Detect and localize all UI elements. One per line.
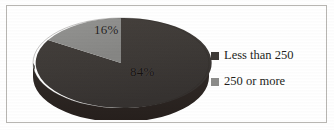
slice-label-less-than-250: 84% — [130, 64, 154, 80]
legend-item-less-than-250[interactable]: Less than 250 — [211, 44, 323, 66]
legend-label-250-or-more: 250 or more — [224, 75, 285, 88]
square-marker-icon — [211, 78, 219, 86]
chart-area: 16% 84% Less than 250 250 or more — [0, 0, 334, 130]
pie-chart-figure: 16% 84% Less than 250 250 or more — [0, 0, 334, 130]
slice-label-250-or-more: 16% — [94, 22, 118, 38]
legend-label-less-than-250: Less than 250 — [224, 49, 293, 62]
square-marker-icon — [211, 52, 219, 60]
pie-chart-graphic — [22, 8, 222, 120]
legend-item-250-or-more[interactable]: 250 or more — [211, 70, 323, 92]
chart-legend: Less than 250 250 or more — [211, 44, 323, 96]
